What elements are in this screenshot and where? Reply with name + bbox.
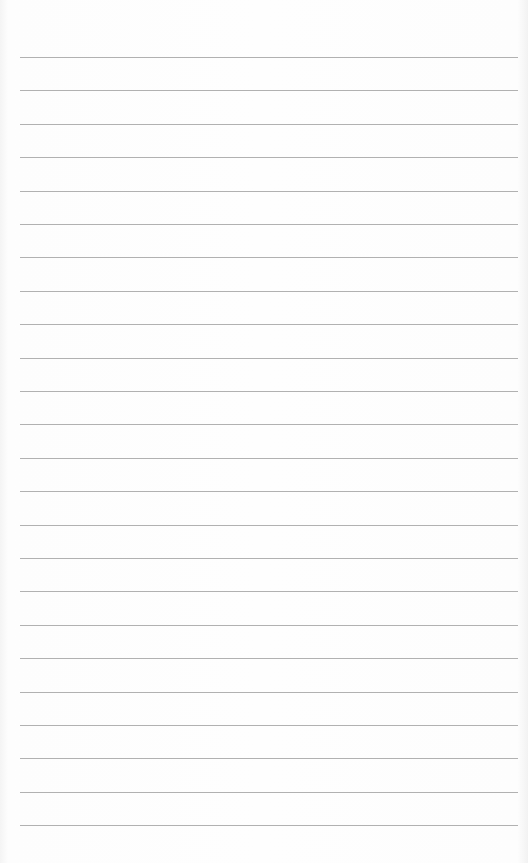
ruled-line xyxy=(20,525,518,526)
ruled-line xyxy=(20,257,518,258)
ruled-line xyxy=(20,692,518,693)
ruled-line xyxy=(20,792,518,793)
ruled-line xyxy=(20,358,518,359)
ruled-line xyxy=(20,124,518,125)
ruled-line xyxy=(20,157,518,158)
ruled-line xyxy=(20,591,518,592)
ruled-line xyxy=(20,825,518,826)
ruled-line xyxy=(20,191,518,192)
ruled-line xyxy=(20,558,518,559)
ruled-line xyxy=(20,291,518,292)
ruled-line xyxy=(20,57,518,58)
ruled-line xyxy=(20,625,518,626)
ruled-line xyxy=(20,725,518,726)
ruled-line xyxy=(20,758,518,759)
ruled-line xyxy=(20,90,518,91)
lined-paper-page xyxy=(0,0,528,863)
ruled-line xyxy=(20,424,518,425)
ruled-line xyxy=(20,658,518,659)
ruled-line xyxy=(20,491,518,492)
ruled-line xyxy=(20,324,518,325)
ruled-line xyxy=(20,391,518,392)
ruled-line xyxy=(20,458,518,459)
ruled-line xyxy=(20,224,518,225)
